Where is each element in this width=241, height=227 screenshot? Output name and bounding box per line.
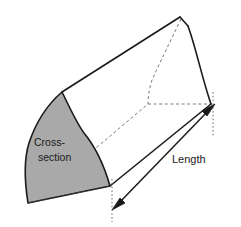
cross-section-label-line1: Cross- — [34, 136, 65, 148]
length-label: Length — [172, 153, 206, 165]
prism-figure: Cross- section Length — [0, 0, 241, 227]
prism-diagram-canvas: Cross- section Length — [0, 0, 241, 227]
cross-section-label-line2: section — [38, 151, 71, 163]
